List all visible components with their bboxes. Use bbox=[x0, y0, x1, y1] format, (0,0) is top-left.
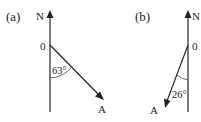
bearing-diagrams: (a) N 0 A 63° (b) N 0 A 26° bbox=[0, 0, 201, 122]
north-arrowhead-icon bbox=[47, 10, 54, 18]
diagram-a-origin-label: 0 bbox=[40, 40, 46, 52]
diagram-b-angle-label: 26° bbox=[172, 89, 187, 100]
north-arrowhead-icon bbox=[185, 10, 192, 18]
diagram-a-angle-label: 63° bbox=[52, 65, 67, 76]
diagram-b-angle-arc bbox=[177, 75, 188, 80]
diagram-a-north-label: N bbox=[36, 10, 44, 22]
diagram-a: (a) N 0 A 63° bbox=[6, 9, 106, 115]
diagram-a-label: (a) bbox=[6, 9, 20, 24]
bearing-arrowhead-icon bbox=[164, 99, 171, 109]
diagram-b: (b) N 0 A 26° bbox=[135, 9, 200, 116]
diagram-b-origin-label: 0 bbox=[192, 40, 198, 52]
diagram-b-point-label: A bbox=[150, 104, 158, 116]
diagram-b-north-label: N bbox=[192, 10, 200, 22]
diagram-a-point-label: A bbox=[98, 103, 106, 115]
diagram-b-label: (b) bbox=[135, 9, 150, 24]
